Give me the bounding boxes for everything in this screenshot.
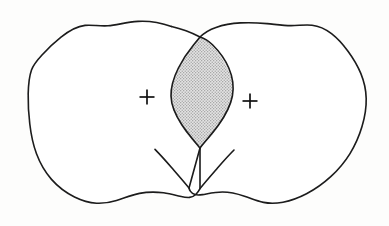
venn-diagram-svg (0, 0, 389, 226)
figure-container: Two overlapping irregular regions with s… (0, 0, 389, 226)
